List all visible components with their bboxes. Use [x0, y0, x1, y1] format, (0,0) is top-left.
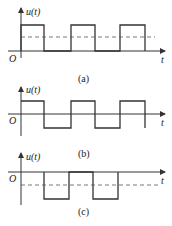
x-axis-label: t — [161, 54, 164, 65]
panel-a: u(t) O t (a) — [8, 6, 165, 85]
y-axis-label: u(t) — [26, 84, 41, 96]
negative-pulse-waveform — [44, 172, 118, 199]
y-axis-label: u(t) — [26, 6, 41, 18]
caption: (a) — [78, 73, 89, 85]
caption: (c) — [78, 206, 89, 218]
x-axis-label: t — [161, 117, 164, 128]
waveform-diagram: u(t) O t (a) u(t) O t (b) u(t) O t (c) — [0, 0, 172, 226]
origin-label: O — [9, 53, 16, 64]
pulse-waveform — [21, 25, 145, 51]
caption: (b) — [78, 148, 90, 160]
panel-b: u(t) O t (b) — [8, 84, 165, 160]
y-axis-label: u(t) — [26, 151, 41, 163]
x-axis-label: t — [161, 175, 164, 186]
origin-label: O — [9, 115, 16, 126]
origin-label: O — [9, 173, 16, 184]
panel-c: u(t) O t (c) — [8, 151, 165, 218]
